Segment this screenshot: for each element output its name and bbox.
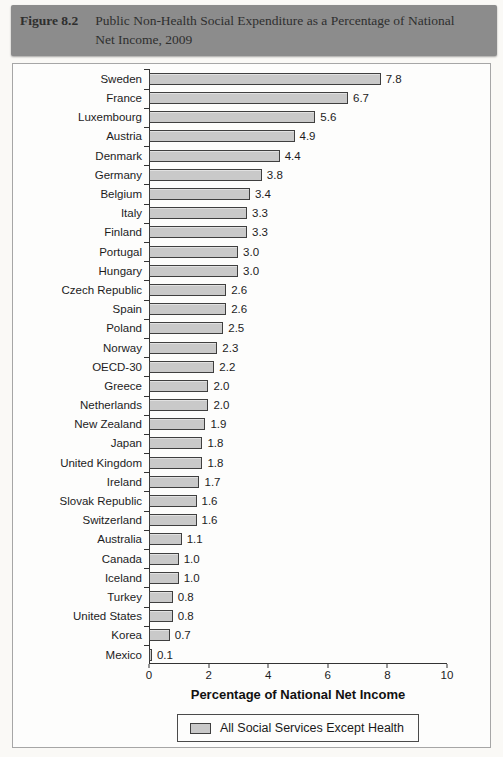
chart-row: United Kingdom 1.8 [13,453,490,472]
category-label: Belgium [13,188,149,200]
bar [149,399,208,411]
bar-track: 2.0 [149,396,446,415]
category-label: Switzerland [13,514,149,526]
x-axis-title: Percentage of National Net Income [149,687,447,702]
bar-track: 3.8 [149,165,446,184]
bar-track: 1.6 [149,511,446,530]
chart-row: Hungary 3.0 [13,261,490,280]
bar [149,610,173,622]
bar [149,207,247,219]
value-label: 0.8 [178,591,194,603]
x-tick-label: 6 [325,669,331,681]
category-label: France [13,92,149,104]
bar [149,303,226,315]
chart-row: Australia 1.1 [13,530,490,549]
x-axis: 0246810 [149,664,447,686]
chart-row: Iceland 1.0 [13,568,490,587]
category-label: Mexico [13,649,149,661]
chart-row: Greece 2.0 [13,376,490,395]
bar-track: 1.8 [149,453,446,472]
bar-track: 3.0 [149,242,446,261]
chart-row: Korea 0.7 [13,626,490,645]
bar-track: 2.6 [149,300,446,319]
chart-row: Ireland 1.7 [13,472,490,491]
chart-card: Sweden 7.8 France 6.7 Luxembourg 5.6 Aus… [12,63,491,748]
value-label: 0.8 [178,610,194,622]
bar-track: 2.0 [149,376,446,395]
category-label: Finland [13,226,149,238]
bar [149,150,280,162]
value-label: 1.1 [187,533,203,545]
figure-label: Figure 8.2 [20,11,78,49]
chart-row: Spain 2.6 [13,300,490,319]
x-tick-mark [208,664,209,668]
chart-row: Japan 1.8 [13,434,490,453]
category-label: Greece [13,380,149,392]
bar-track: 4.9 [149,127,446,146]
bar [149,322,223,334]
value-label: 2.5 [228,322,244,334]
bar [149,437,202,449]
value-label: 5.6 [320,111,336,123]
value-label: 3.4 [255,188,271,200]
x-tick-mark [149,664,150,668]
value-label: 3.0 [243,265,259,277]
value-label: 0.1 [157,649,173,661]
chart-row: Norway 2.3 [13,338,490,357]
value-label: 6.7 [353,92,369,104]
category-label: Austria [13,130,149,142]
value-label: 1.0 [184,572,200,584]
x-tick-mark [447,664,448,668]
bar-track: 1.8 [149,434,446,453]
category-label: Ireland [13,476,149,488]
category-label: Iceland [13,572,149,584]
category-label: United Kingdom [13,457,149,469]
chart-row: Germany 3.8 [13,165,490,184]
bar [149,92,348,104]
chart-row: Slovak Republic 1.6 [13,491,490,510]
category-label: Luxembourg [13,111,149,123]
value-label: 2.0 [213,380,229,392]
bar [149,553,179,565]
category-label: Spain [13,303,149,315]
bar [149,342,217,354]
bar [149,188,250,200]
chart-row: Italy 3.3 [13,204,490,223]
bar-track: 3.3 [149,204,446,223]
value-label: 3.3 [252,226,268,238]
value-label: 2.6 [231,284,247,296]
legend-area: All Social Services Except Health [149,714,447,742]
bar-track: 4.4 [149,146,446,165]
category-label: Czech Republic [13,284,149,296]
legend: All Social Services Except Health [177,714,419,742]
bar [149,629,170,641]
category-label: Norway [13,342,149,354]
category-label: Hungary [13,265,149,277]
x-tick-label: 8 [384,669,390,681]
value-label: 2.0 [213,399,229,411]
chart-row: Netherlands 2.0 [13,396,490,415]
value-label: 2.6 [231,303,247,315]
value-label: 1.9 [210,418,226,430]
value-label: 1.8 [207,437,223,449]
legend-label: All Social Services Except Health [220,721,404,735]
bar [149,284,226,296]
category-label: Germany [13,169,149,181]
value-label: 4.9 [300,130,316,142]
chart-row: OECD-30 2.2 [13,357,490,376]
category-label: Australia [13,533,149,545]
chart-row: Belgium 3.4 [13,184,490,203]
bar [149,361,214,373]
bar-track: 0.8 [149,587,446,606]
category-label: Denmark [13,150,149,162]
chart-row: Mexico 0.1 [13,645,490,664]
bar-track: 5.6 [149,108,446,127]
chart-row: United States 0.8 [13,607,490,626]
bar [149,495,197,507]
bar-track: 0.1 [149,645,446,664]
category-label: Sweden [13,73,149,85]
bar-track: 2.6 [149,280,446,299]
value-label: 2.2 [219,361,235,373]
category-label: Poland [13,322,149,334]
bar-track: 3.4 [149,184,446,203]
